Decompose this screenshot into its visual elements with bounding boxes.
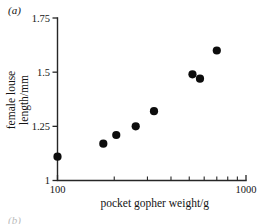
scatter-plot: 11.251.51.75 1001000 pocket gopher weigh… [0,0,258,224]
plot-axes [58,18,247,181]
axis-lines [58,18,247,181]
data-point [53,153,61,161]
data-point [99,140,107,148]
x-axis-ticks: 1001000 [50,175,257,195]
data-point [213,46,221,54]
data-point [188,70,196,78]
y-tick-label: 1.75 [32,13,50,24]
x-axis-title: pocket gopher weight/g [100,197,209,210]
data-point [150,107,158,115]
figure-panel-a: (a) 11.251.51.75 1001000 pocket gopher w… [0,0,258,224]
y-axis-title-line1: female louse [5,71,17,129]
data-point [132,122,140,130]
y-tick-label: 1.5 [37,67,50,78]
data-point [112,131,120,139]
y-tick-label: 1.25 [32,121,50,132]
x-tick-label: 1000 [236,184,257,195]
data-point [196,75,204,83]
y-axis-title-line2: length/mm [18,75,31,125]
x-tick-label: 100 [50,184,66,195]
axis-titles: pocket gopher weight/gfemale louselength… [5,71,209,210]
y-axis-ticks: 11.251.51.75 [32,13,58,187]
next-panel-label: (b) [8,214,21,224]
data-points [53,46,221,160]
